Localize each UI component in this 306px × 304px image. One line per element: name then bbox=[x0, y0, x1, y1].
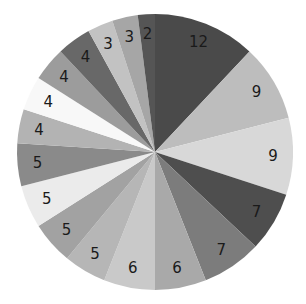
slice-value-label: 9 bbox=[252, 83, 262, 101]
slice-value-label: 5 bbox=[33, 154, 43, 172]
slice-value-label: 4 bbox=[43, 93, 53, 111]
slice-value-label: 9 bbox=[268, 147, 278, 165]
slice-value-label: 4 bbox=[81, 48, 91, 66]
pie-slices bbox=[17, 14, 293, 290]
pie-chart: 1299776655554444332 bbox=[0, 0, 306, 304]
slice-value-label: 4 bbox=[34, 121, 44, 139]
slice-value-label: 3 bbox=[103, 35, 113, 53]
slice-value-label: 7 bbox=[217, 241, 227, 259]
slice-value-label: 5 bbox=[62, 221, 72, 239]
slice-value-label: 6 bbox=[172, 259, 182, 277]
slice-value-label: 6 bbox=[128, 259, 138, 277]
slice-value-label: 5 bbox=[90, 245, 100, 263]
slice-value-label: 7 bbox=[252, 203, 262, 221]
slice-value-label: 4 bbox=[59, 68, 69, 86]
slice-value-label: 3 bbox=[124, 28, 134, 46]
slice-value-label: 2 bbox=[143, 25, 153, 43]
slice-value-label: 5 bbox=[42, 190, 52, 208]
slice-value-label: 12 bbox=[189, 33, 208, 51]
